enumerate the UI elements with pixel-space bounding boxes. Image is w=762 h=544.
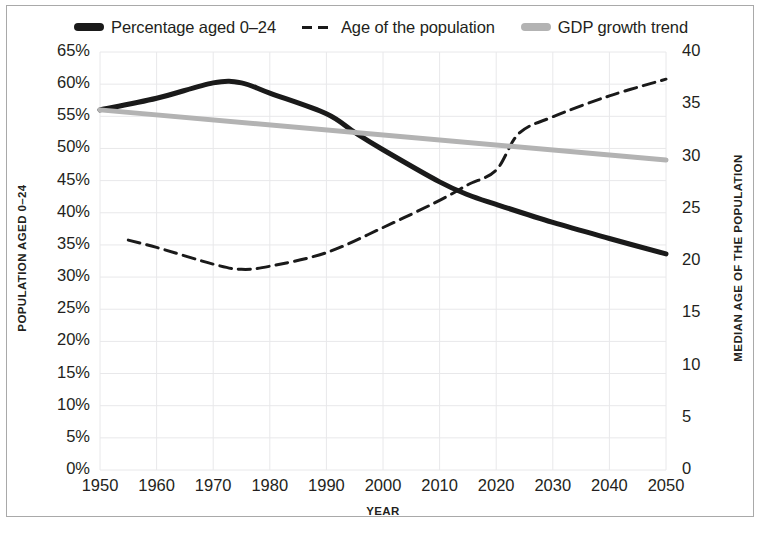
chart-canvas xyxy=(0,0,762,544)
series-line-1 xyxy=(128,79,666,269)
x-axis-title: YEAR xyxy=(100,505,666,517)
y-axis-left-tick: 50% xyxy=(20,137,90,156)
chart-figure: Percentage aged 0–24 Age of the populati… xyxy=(0,0,762,544)
y-axis-left-tick: 55% xyxy=(20,105,90,124)
y-axis-right-tick: 10 xyxy=(682,355,726,374)
y-axis-left-tick: 10% xyxy=(20,395,90,414)
y-axis-left-tick: 20% xyxy=(20,330,90,349)
y-axis-right-tick: 15 xyxy=(682,302,726,321)
y-axis-right-tick: 5 xyxy=(682,407,726,426)
y-axis-right-tick: 25 xyxy=(682,198,726,217)
plot-area-wrapper: 0%5%10%15%20%25%30%35%40%45%50%55%60%65%… xyxy=(0,0,762,544)
y-axis-left-tick: 5% xyxy=(20,427,90,446)
x-axis-tick: 2050 xyxy=(631,476,701,495)
y-axis-left-tick: 30% xyxy=(20,266,90,285)
y-axis-right-tick: 20 xyxy=(682,250,726,269)
y-axis-left-tick: 60% xyxy=(20,73,90,92)
y-axis-left-tick: 15% xyxy=(20,363,90,382)
y-axis-right-tick: 30 xyxy=(682,146,726,165)
y-axis-left-tick: 45% xyxy=(20,170,90,189)
y-axis-left-tick: 40% xyxy=(20,202,90,221)
chart-gridlines xyxy=(100,52,666,470)
y-axis-right-tick: 35 xyxy=(682,93,726,112)
y-axis-left-tick: 35% xyxy=(20,234,90,253)
figure-bottom-margin xyxy=(0,520,762,544)
y-axis-left-tick: 25% xyxy=(20,298,90,317)
y-axis-right-tick: 40 xyxy=(682,41,726,60)
y-axis-right-title: MEDIAN AGE OF THE POPULATION xyxy=(732,148,744,368)
y-axis-left-title: POPULATION AGED 0–24 xyxy=(16,148,28,368)
y-axis-left-tick: 65% xyxy=(20,41,90,60)
